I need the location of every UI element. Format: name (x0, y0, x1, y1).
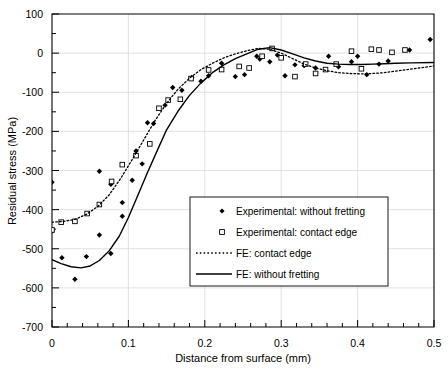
data-point (72, 277, 77, 282)
data-point (97, 169, 102, 174)
legend-entry-label: FE: without fretting (236, 269, 319, 280)
x-tick-label: 0.3 (274, 337, 289, 349)
data-point (233, 74, 238, 79)
x-axis-title: Distance from surface (mm) (175, 352, 311, 364)
residual-stress-chart-figure: -700-600-500-400-300-200-100010000.10.20… (0, 0, 448, 379)
data-point (206, 68, 211, 73)
data-point (282, 73, 287, 78)
data-point (120, 214, 125, 219)
data-point (50, 228, 55, 233)
data-point (326, 54, 331, 59)
data-point (109, 179, 114, 184)
data-point (260, 54, 265, 59)
y-tick-label: 0 (37, 47, 43, 59)
x-tick-label: 0.2 (197, 337, 212, 349)
y-tick-label: 100 (25, 8, 43, 20)
data-point (147, 142, 152, 147)
y-tick-label: -600 (22, 282, 43, 294)
legend-marker-open-square-icon (220, 230, 225, 235)
data-point (139, 161, 144, 166)
data-point (313, 71, 318, 76)
x-tick-label: 0.5 (427, 337, 442, 349)
data-point (59, 255, 64, 260)
y-tick-label: -400 (22, 204, 43, 216)
data-point (178, 97, 183, 102)
data-point (364, 72, 369, 77)
data-point (293, 74, 298, 79)
legend: Experimental: without frettingExperiment… (190, 197, 388, 286)
data-point (369, 47, 374, 52)
data-point (49, 180, 54, 185)
chart-canvas: -700-600-500-400-300-200-100010000.10.20… (0, 0, 448, 379)
data-point (390, 50, 395, 55)
data-point (279, 56, 284, 61)
x-tick-label: 0.4 (350, 337, 365, 349)
y-tick-label: -100 (22, 86, 43, 98)
tick-labels: -700-600-500-400-300-200-100010000.10.20… (22, 8, 441, 349)
data-point (377, 48, 382, 53)
data-point (349, 49, 354, 54)
y-tick-label: -500 (22, 243, 43, 255)
data-point (267, 59, 272, 64)
legend-entry-label: Experimental: contact edge (236, 227, 358, 238)
data-point (427, 37, 432, 42)
data-point (120, 162, 125, 167)
data-point (247, 66, 252, 71)
data-point (130, 178, 135, 183)
x-tick-label: 0 (49, 337, 55, 349)
legend-entry-label: FE: contact edge (236, 248, 312, 259)
y-axis-title: Residual stress (MPa) (6, 117, 18, 225)
data-point (292, 62, 297, 67)
data-point (120, 200, 125, 205)
data-point (170, 85, 175, 90)
data-point (349, 59, 354, 64)
data-point (84, 254, 89, 259)
data-point (145, 120, 150, 125)
data-point (97, 232, 102, 237)
y-tick-label: -700 (22, 321, 43, 333)
data-point (355, 54, 360, 59)
legend-entry-label: Experimental: without fretting (236, 206, 365, 217)
x-tick-label: 0.1 (121, 337, 136, 349)
data-point (242, 72, 247, 77)
data-point (403, 48, 408, 53)
data-point (237, 64, 242, 69)
y-tick-label: -300 (22, 165, 43, 177)
data-point (157, 106, 162, 111)
y-tick-label: -200 (22, 125, 43, 137)
data-point (359, 66, 364, 71)
